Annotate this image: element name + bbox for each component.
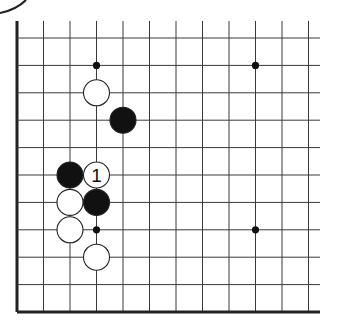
star-point	[252, 226, 259, 233]
stone-disc	[57, 162, 83, 188]
black-stone	[110, 107, 136, 133]
stone-disc	[84, 189, 110, 215]
go-board-diagram: 1	[0, 0, 338, 328]
black-stone	[57, 162, 83, 188]
diagram-label-circle-arc	[0, 0, 26, 13]
stone-disc	[110, 107, 136, 133]
stone-disc	[57, 217, 83, 243]
white-stone	[84, 80, 110, 106]
stone-disc	[84, 80, 110, 106]
star-point	[93, 226, 100, 233]
black-stone	[84, 189, 110, 215]
white-stone	[57, 189, 83, 215]
star-point	[93, 62, 100, 69]
move-number-label: 1	[91, 165, 102, 186]
white-stone: 1	[84, 162, 110, 188]
star-point	[252, 62, 259, 69]
stone-disc	[57, 189, 83, 215]
stone-disc	[84, 244, 110, 270]
white-stone	[84, 244, 110, 270]
white-stone	[57, 217, 83, 243]
